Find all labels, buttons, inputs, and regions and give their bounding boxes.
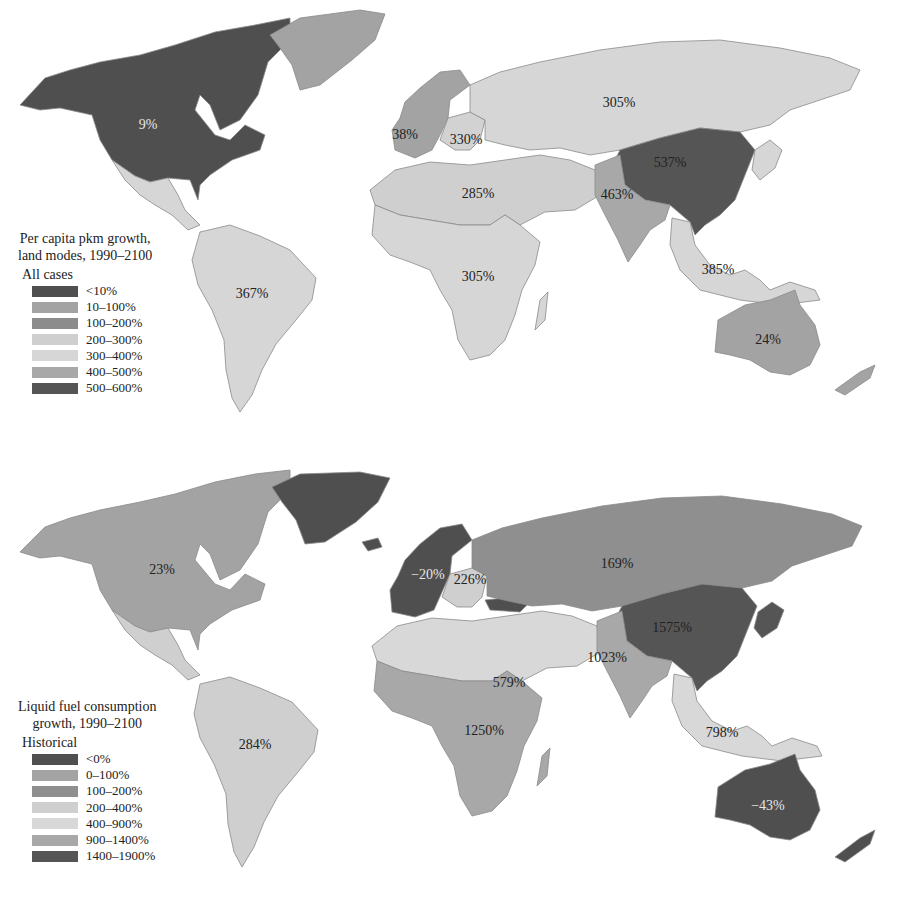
legend-label: 500–600% [86,380,142,396]
legend-label: 100–200% [86,315,142,331]
label-pacific-oecd: −43% [751,798,785,814]
region-latin-america [194,677,318,867]
label-western-europe: 38% [392,127,418,143]
legend-swatch [32,851,78,862]
region-new-zealand [835,365,875,395]
region-madagascar [535,292,548,330]
region-japan [754,602,784,638]
legend-swatch [32,286,78,297]
map-liquid-fuel-consumption-growth: 23% −20% 226% 169% 1575% 1023% 579% 1250… [0,452,900,904]
legend-label: 200–400% [86,800,142,816]
legend-label: 400–500% [86,364,142,380]
region-pacific-oecd [715,754,820,840]
label-eastern-europe: 330% [450,132,483,148]
region-mena [372,611,602,681]
legend-subtitle: All cases [22,267,152,283]
legend-item: 500–600% [32,380,152,396]
legend-swatch [32,367,78,378]
label-sub-saharan-africa: 1250% [464,723,504,739]
region-north-america [20,18,290,200]
region-greenland [272,472,390,544]
label-mena: 285% [462,186,495,202]
legend-item: 0–100% [32,767,156,783]
legend-label: 200–300% [86,332,142,348]
legend-label: <0% [86,751,111,767]
legend-item: 400–500% [32,364,152,380]
label-other-pacific-asia: 385% [702,262,735,278]
legend-swatch [32,786,78,797]
region-sub-saharan-africa [372,205,540,360]
legend-title-line1: Liquid fuel consumption [18,698,156,715]
legend-swatch [32,318,78,329]
region-other-pacific-asia [672,674,822,761]
legend-item: 100–200% [32,315,152,331]
label-western-europe: −20% [411,567,445,583]
label-china: 537% [654,155,687,171]
legend-item: <0% [32,751,156,767]
legend-label: 300–400% [86,348,142,364]
legend-label: 900–1400% [86,832,149,848]
label-fsu: 305% [603,95,636,111]
legend-label: 10–100% [86,299,136,315]
label-pacific-oecd: 24% [755,332,781,348]
legend-item: 400–900% [32,816,156,832]
legend-swatch [32,835,78,846]
legend-item: 1400–1900% [32,848,156,864]
legend-subtitle: Historical [22,735,156,751]
legend-title-line1: Per capita pkm growth, [18,230,152,247]
legend-swatch [32,770,78,781]
label-mena: 579% [493,675,526,691]
legend-item: 900–1400% [32,832,156,848]
legend-item: <10% [32,283,152,299]
label-other-pacific-asia: 798% [706,725,739,741]
legend-swatch [32,802,78,813]
legend-swatch [32,383,78,394]
legend-item: 200–300% [32,332,152,348]
legend-swatch [32,302,78,313]
legend-title-line2: land modes, 1990–2100 [18,247,152,264]
region-japan [752,140,782,180]
region-latin-america [192,225,316,412]
label-south-asia: 463% [601,187,634,203]
legend-label: 100–200% [86,783,142,799]
legend-swatch [32,818,78,829]
region-north-america [20,470,290,650]
legend-item: 200–400% [32,800,156,816]
legend-swatch [32,350,78,361]
legend-label: 400–900% [86,816,142,832]
legend-label: 0–100% [86,767,129,783]
label-china: 1575% [652,620,692,636]
region-new-zealand [835,830,875,862]
label-north-america: 23% [149,562,175,578]
legend-bottom: Liquid fuel consumption growth, 1990–210… [18,698,156,864]
label-sub-saharan-africa: 305% [462,269,495,285]
label-north-america: 9% [139,117,158,133]
label-fsu: 169% [601,556,634,572]
legend-label: 1400–1900% [86,848,155,864]
legend-title-line2: growth, 1990–2100 [18,715,156,732]
label-latin-america: 367% [236,286,269,302]
legend-top: Per capita pkm growth, land modes, 1990–… [18,230,152,396]
region-iceland [362,538,382,551]
legend-label: <10% [86,283,117,299]
label-latin-america: 284% [239,737,272,753]
legend-item: 300–400% [32,348,152,364]
legend-item: 100–200% [32,783,156,799]
region-madagascar [537,748,550,786]
map-per-capita-pkm-growth: 9% 38% 330% 305% 537% 285% 463% 305% 367… [0,0,900,452]
legend-item: 10–100% [32,299,152,315]
legend-swatch [32,754,78,765]
legend-swatch [32,334,78,345]
label-south-asia: 1023% [587,650,627,666]
region-other-pacific-asia [670,218,820,305]
label-eastern-europe: 226% [454,572,487,588]
